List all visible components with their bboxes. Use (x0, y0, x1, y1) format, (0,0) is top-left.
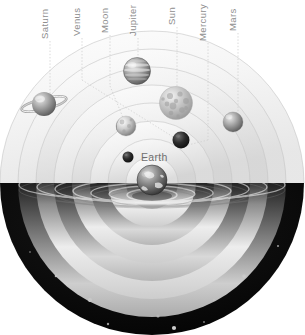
diagram-canvas: Saturn Venus Moon Jupiter Sun Mercury Ma… (0, 0, 305, 335)
callout-label-mercury: Mercury (197, 4, 208, 41)
planet-sun (160, 87, 193, 120)
callout-label-venus: Venus (71, 8, 82, 36)
planet-mercury (123, 152, 134, 163)
planet-mars (223, 112, 243, 132)
callout-label-saturn: Saturn (39, 9, 50, 39)
planet-moon (116, 116, 136, 136)
callout-label-mars: Mars (227, 8, 238, 31)
planet-venus (173, 132, 190, 149)
solar-system-illustration (0, 0, 305, 335)
planet-jupiter (124, 58, 151, 85)
callout-label-moon: Moon (99, 8, 110, 33)
callout-label-sun: Sun (166, 7, 177, 25)
callout-label-jupiter: Jupiter (127, 5, 138, 36)
earth-label: Earth (141, 151, 168, 163)
